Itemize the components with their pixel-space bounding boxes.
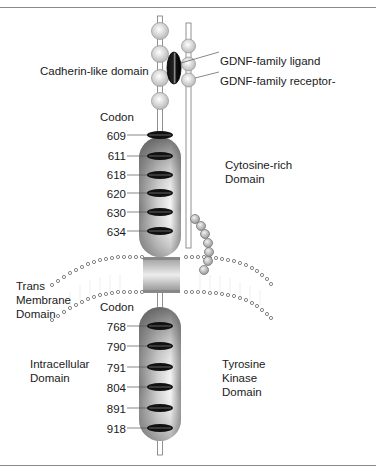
intracellular-codon-header: Codon <box>100 300 134 314</box>
gfr-beads <box>182 39 196 87</box>
cadherin-label: Cadherin-like domain <box>40 64 149 78</box>
codon-label: 611 <box>100 149 126 163</box>
codon-label: 918 <box>100 422 126 436</box>
tyrosine-line2: Kinase <box>222 371 265 385</box>
codon-label: 804 <box>100 381 126 395</box>
intracellular-label: Intracellular Domain <box>30 357 89 385</box>
codon-label: 634 <box>100 225 126 239</box>
extracellular-codon-header: Codon <box>100 110 134 124</box>
gdnf-ligand-shape <box>167 52 181 84</box>
intracellular-line1: Intracellular <box>30 357 89 371</box>
trans-line2: Membrane <box>16 293 71 307</box>
tyrosine-line1: Tyrosine <box>222 357 265 371</box>
codon-label: 609 <box>100 129 126 143</box>
codon-label: 620 <box>100 187 126 201</box>
codon-label: 630 <box>100 206 126 220</box>
cytosine-rich-line1: Cytosine-rich <box>225 158 292 172</box>
gdnf-ligand-label: GDNF-family ligand <box>220 54 320 68</box>
trans-line1: Trans <box>16 279 71 293</box>
codon-label: 791 <box>100 361 126 375</box>
cytosine-rich-label: Cytosine-rich Domain <box>225 158 292 186</box>
trans-line3: Domain <box>16 307 71 321</box>
transmembrane-block <box>143 257 180 293</box>
tyrosine-line3: Domain <box>222 385 265 399</box>
codon-label: 790 <box>100 340 126 354</box>
cytosine-rich-line2: Domain <box>225 172 292 186</box>
gdnf-receptor-label: GDNF-family receptor- <box>220 74 336 88</box>
tyrosine-kinase-label: Tyrosine Kinase Domain <box>222 357 265 399</box>
intracellular-line2: Domain <box>30 371 89 385</box>
gpi-anchor-beads <box>191 215 214 275</box>
codon-label: 768 <box>100 320 126 334</box>
codon-label: 891 <box>100 402 126 416</box>
transmembrane-label: Trans Membrane Domain <box>16 279 71 321</box>
codon-label: 618 <box>100 168 126 182</box>
